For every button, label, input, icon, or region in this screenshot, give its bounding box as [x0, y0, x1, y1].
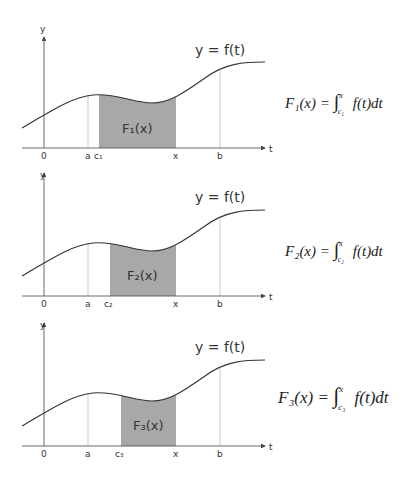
formula-2: F₂(x) = ∫xc₂ f(t)dt	[285, 238, 383, 261]
svg-text:0: 0	[41, 449, 47, 459]
svg-text:x: x	[173, 151, 179, 161]
curve-label: y = f(t)	[195, 42, 245, 58]
svg-text:a: a	[85, 299, 91, 309]
svg-text:a: a	[85, 449, 91, 459]
region-label: F₁(x)	[122, 121, 153, 136]
svg-text:0: 0	[41, 151, 47, 161]
svg-text:c₃: c₃	[115, 449, 124, 459]
svg-text:y: y	[40, 170, 46, 180]
svg-text:b: b	[217, 449, 223, 459]
svg-text:b: b	[217, 299, 223, 309]
svg-text:F₂(x): F₂(x)	[127, 268, 158, 283]
svg-text:F₃(x): F₃(x)	[133, 418, 164, 433]
svg-text:0: 0	[41, 299, 47, 309]
y-label: y	[40, 24, 46, 34]
svg-text:x: x	[173, 299, 179, 309]
svg-text:c₂: c₂	[104, 299, 113, 309]
svg-text:c₁: c₁	[94, 151, 103, 161]
svg-text:y = f(t): y = f(t)	[195, 189, 245, 205]
svg-text:x: x	[173, 449, 179, 459]
formula-1: F₁(x) = ∫xc₁ f(t)dt	[285, 90, 383, 113]
svg-text:y = f(t): y = f(t)	[195, 339, 245, 355]
svg-text:t: t	[269, 442, 273, 452]
formula-3: F₃(x) = ∫xc₃ f(t)dt	[278, 383, 389, 409]
svg-text:b: b	[217, 151, 223, 161]
svg-text:t: t	[269, 292, 273, 302]
svg-text:y: y	[40, 320, 46, 330]
svg-text:a: a	[85, 151, 91, 161]
svg-text:t: t	[269, 144, 273, 154]
